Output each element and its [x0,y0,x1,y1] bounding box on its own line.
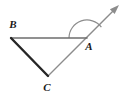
geometry-figure-canvas: B A C [0,0,127,97]
vertex-label-c: C [43,81,51,93]
vertex-label-b: B [8,18,16,30]
segment-BC [11,38,48,76]
ray-segment-CA [48,8,116,76]
geometry-diagram-svg: B A C [0,0,127,97]
angle-arc-at-A [69,20,101,38]
vertex-label-a: A [84,40,92,52]
